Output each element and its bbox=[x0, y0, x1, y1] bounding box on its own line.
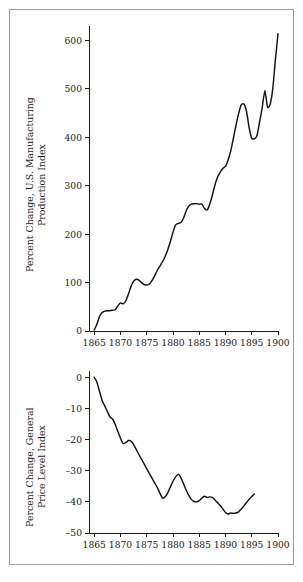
y-tick-label: 200 bbox=[64, 229, 82, 240]
y-tick-label: 500 bbox=[64, 83, 82, 94]
data-series-line bbox=[94, 377, 254, 514]
y-tick-label: 0 bbox=[76, 372, 82, 383]
y-axis-title-price-level: Percent Change, General Price Level Inde… bbox=[24, 392, 50, 542]
x-tick-label: 1895 bbox=[240, 539, 264, 550]
data-series-line bbox=[94, 34, 278, 330]
y-tick-label: –50 bbox=[66, 527, 82, 538]
x-tick-label: 1870 bbox=[109, 539, 133, 550]
x-tick-label: 1865 bbox=[83, 539, 107, 550]
x-tick-label: 1895 bbox=[240, 337, 264, 348]
y-tick-label: 300 bbox=[64, 180, 82, 191]
figure-frame-border: 0100200300400500600186518701875188018851… bbox=[9, 9, 294, 565]
y-axis-title-manufacturing: Percent Change, U.S. Manufacturing Produ… bbox=[24, 70, 50, 300]
x-tick-label: 1880 bbox=[161, 337, 185, 348]
x-tick-label: 1875 bbox=[135, 539, 159, 550]
x-tick-label: 1870 bbox=[109, 337, 133, 348]
x-tick-label: 1900 bbox=[266, 539, 290, 550]
x-tick-label: 1865 bbox=[83, 337, 107, 348]
x-tick-label: 1890 bbox=[214, 539, 238, 550]
x-tick-label: 1875 bbox=[135, 337, 159, 348]
chart-general-price-level: 0–10–20–30–40–50186518701875188018851890… bbox=[10, 350, 295, 550]
y-tick-label: –40 bbox=[66, 496, 82, 507]
y-tick-label: 0 bbox=[76, 325, 82, 336]
chart-manufacturing-production: 0100200300400500600186518701875188018851… bbox=[10, 10, 295, 350]
x-tick-label: 1885 bbox=[188, 337, 212, 348]
y-tick-label: 100 bbox=[64, 277, 82, 288]
figure-root: 0100200300400500600186518701875188018851… bbox=[0, 0, 303, 582]
y-tick-label: 400 bbox=[64, 132, 82, 143]
x-tick-label: 1900 bbox=[266, 337, 290, 348]
x-tick-label: 1880 bbox=[161, 539, 185, 550]
x-tick-label: 1890 bbox=[214, 337, 238, 348]
y-tick-label: 600 bbox=[64, 35, 82, 46]
y-tick-label: –20 bbox=[66, 434, 82, 445]
y-tick-label: –10 bbox=[66, 403, 82, 414]
x-tick-label: 1885 bbox=[188, 539, 212, 550]
y-tick-label: –30 bbox=[66, 465, 82, 476]
